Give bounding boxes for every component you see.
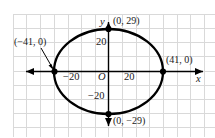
vertex-dot-right — [160, 68, 166, 74]
graph-canvas — [0, 0, 215, 138]
y-tick-label-positive-20: 20 — [96, 37, 107, 48]
vertex-dot-bottom — [105, 111, 111, 117]
x-axis-label: x — [196, 74, 201, 85]
x-tick-label-negative-20: −20 — [63, 72, 79, 83]
point-label-bottom-vertex: (0, −29) — [113, 116, 145, 126]
y-axis-label: y — [100, 17, 105, 28]
ellipse-figure: y x O −20 20 20 −20 (0, 29) (0, −29) (−4… — [0, 0, 215, 138]
leader-line-left-vertex — [41, 48, 54, 70]
vertex-dot-left — [51, 68, 57, 74]
vertex-dot-top — [105, 26, 111, 32]
point-label-right-vertex: (41, 0) — [166, 55, 193, 65]
y-tick-label-negative-20: −20 — [88, 91, 104, 102]
point-label-left-vertex: (−41, 0) — [14, 37, 46, 47]
origin-label: O — [98, 72, 106, 83]
point-label-top-vertex: (0, 29) — [113, 16, 140, 26]
x-tick-label-positive-20: 20 — [124, 72, 135, 83]
